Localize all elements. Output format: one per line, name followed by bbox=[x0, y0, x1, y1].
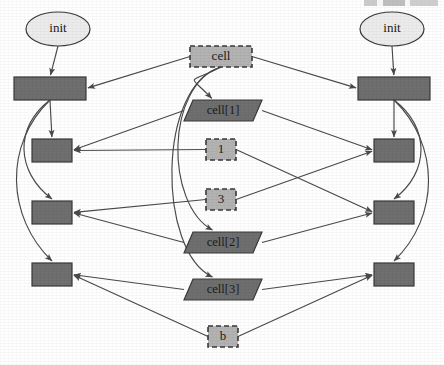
node-const-b[interactable]: b bbox=[208, 326, 238, 347]
node-shape bbox=[374, 201, 414, 224]
node-shape bbox=[32, 263, 72, 286]
node-const-1[interactable]: 1 bbox=[206, 139, 236, 160]
node-shape bbox=[208, 326, 238, 347]
node-init-left[interactable]: init bbox=[26, 12, 90, 46]
node-shape bbox=[184, 232, 262, 253]
edge-left-box-1-to-left-box-2 bbox=[50, 100, 52, 137]
node-left-box-2[interactable] bbox=[32, 139, 72, 162]
edge-cell-to-right-box-1 bbox=[252, 57, 356, 88]
node-shape bbox=[32, 139, 72, 162]
node-shape bbox=[184, 279, 262, 300]
edge-cell-to-left-box-1 bbox=[88, 57, 190, 88]
node-left-box-1[interactable] bbox=[14, 77, 86, 100]
node-cell2[interactable]: cell[2] bbox=[184, 232, 262, 253]
node-init-right[interactable]: init bbox=[360, 12, 424, 46]
edge-cell3-to-right-box-4 bbox=[262, 275, 372, 290]
node-shape bbox=[26, 12, 90, 46]
node-shape bbox=[206, 139, 236, 160]
node-shape bbox=[190, 46, 252, 67]
graph-svg: initinitcellcell[1]13cell[2]cell[3]b bbox=[0, 0, 444, 365]
node-cell3[interactable]: cell[3] bbox=[184, 279, 262, 300]
node-layer: initinitcellcell[1]13cell[2]cell[3]b bbox=[14, 12, 430, 347]
node-shape bbox=[206, 189, 236, 210]
node-shape bbox=[14, 77, 86, 100]
edge-cell1-to-right-box-2 bbox=[262, 111, 372, 150]
edge-cell2-to-right-box-3 bbox=[262, 213, 372, 242]
edge-init-left-to-left-box-1 bbox=[50, 46, 58, 75]
diagram-canvas: initinitcellcell[1]13cell[2]cell[3]b bbox=[0, 0, 444, 365]
node-shape bbox=[32, 201, 72, 224]
edge-const-3-to-left-box-3 bbox=[74, 200, 206, 213]
page-edge-artifact bbox=[364, 0, 438, 6]
node-cell1[interactable]: cell[1] bbox=[184, 100, 262, 121]
node-shape bbox=[360, 12, 424, 46]
node-left-box-4[interactable] bbox=[32, 263, 72, 286]
edge-cell2-to-left-box-3 bbox=[74, 213, 184, 242]
node-shape bbox=[184, 100, 262, 121]
edge-cell3-to-left-box-4 bbox=[74, 275, 184, 290]
node-right-box-3[interactable] bbox=[374, 201, 414, 224]
edge-init-right-to-right-box-1 bbox=[392, 46, 394, 75]
node-right-box-2[interactable] bbox=[374, 139, 414, 162]
node-cell[interactable]: cell bbox=[190, 46, 252, 67]
node-shape bbox=[358, 77, 430, 100]
node-shape bbox=[374, 263, 414, 286]
node-right-box-4[interactable] bbox=[374, 263, 414, 286]
node-shape bbox=[374, 139, 414, 162]
node-right-box-1[interactable] bbox=[358, 77, 430, 100]
edge-cell1-to-left-box-2 bbox=[74, 111, 184, 150]
node-const-3[interactable]: 3 bbox=[206, 189, 236, 210]
edge-const-b-to-left-box-4 bbox=[74, 275, 208, 336]
edge-const-1-to-left-box-2 bbox=[74, 150, 206, 151]
node-left-box-3[interactable] bbox=[32, 201, 72, 224]
